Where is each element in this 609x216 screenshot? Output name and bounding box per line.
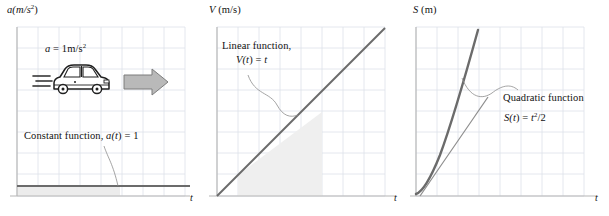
shaded-area-acceleration — [17, 186, 120, 196]
linear-function-caption-line1: Linear function, — [222, 40, 291, 52]
speed-lines-icon — [33, 76, 52, 86]
x-axis-label-acceleration: t — [190, 192, 193, 204]
panel-displacement: S (m) — [400, 0, 609, 216]
quadratic-function-curve — [416, 30, 478, 194]
panel-acceleration: a(m/s2) — [0, 0, 200, 216]
x-axis-label-velocity: t — [394, 192, 397, 204]
acceleration-value-annotation: a = 1m/s2 — [45, 43, 86, 55]
velocity-plot — [195, 0, 405, 216]
caption-leader-line-acceleration — [104, 146, 118, 186]
linear-function-caption-line2: V(t) = t — [236, 54, 267, 66]
grid-lines — [17, 27, 185, 196]
x-axis-label-displacement: t — [595, 192, 598, 204]
quadratic-function-caption-line1: Quadratic function — [503, 92, 584, 104]
physics-kinematics-figure: a(m/s2) — [0, 0, 609, 216]
grid-lines — [416, 27, 584, 196]
quadratic-function-caption-line2: S(t) = t2/2 — [504, 112, 546, 124]
right-arrow-icon — [124, 69, 168, 95]
panel-velocity: V (m/s) — [195, 0, 405, 216]
displacement-plot — [400, 0, 609, 216]
caption-leader-line-velocity — [248, 75, 298, 116]
acceleration-plot — [0, 0, 200, 216]
constant-function-caption: Constant function, a(t) = 1 — [24, 130, 139, 142]
